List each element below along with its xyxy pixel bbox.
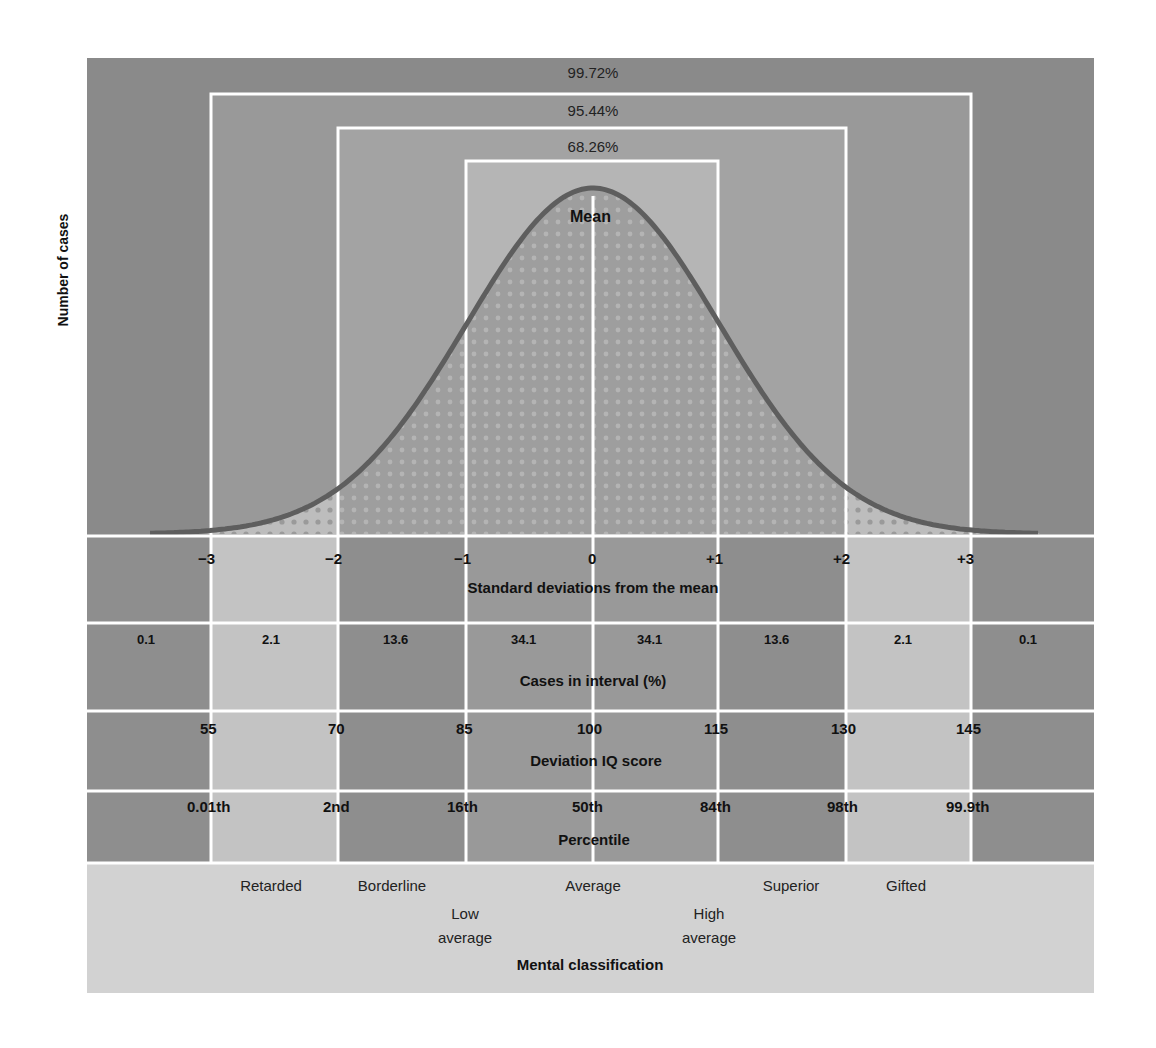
class-superior: Superior (763, 874, 820, 898)
sd-tick-0: 0 (588, 550, 596, 567)
class-low-average-line2: average (438, 926, 492, 950)
iq-value: 145 (956, 720, 981, 737)
cases-value: 0.1 (137, 632, 155, 647)
cases-value: 34.1 (637, 632, 662, 647)
sd-row-title: Standard deviations from the mean (468, 579, 719, 596)
class-high-average-line1: High (694, 902, 725, 926)
percentile-value: 99.9th (946, 798, 989, 815)
sd-tick-plus3: +3 (957, 550, 974, 567)
percentile-value: 84th (700, 798, 731, 815)
percentile-value: 2nd (323, 798, 350, 815)
bracket-95-label: 95.44% (568, 102, 619, 119)
bracket-68-label: 68.26% (568, 138, 619, 155)
iq-value: 100 (577, 720, 602, 737)
cases-value: 13.6 (383, 632, 408, 647)
sd-tick-plus2: +2 (833, 550, 850, 567)
cases-value: 2.1 (894, 632, 912, 647)
percentile-value: 16th (447, 798, 478, 815)
cases-value: 0.1 (1019, 632, 1037, 647)
mean-label: Mean (570, 208, 611, 226)
iq-value: 70 (328, 720, 345, 737)
iq-value: 115 (704, 720, 728, 737)
iq-value: 130 (831, 720, 856, 737)
iq-value: 85 (456, 720, 473, 737)
sd-tick-minus3: −3 (198, 550, 215, 567)
class-average: Average (565, 874, 621, 898)
sd-tick-minus2: −2 (325, 550, 342, 567)
class-retarded: Retarded (240, 874, 302, 898)
percentile-value: 0.01th (187, 798, 230, 815)
iq-normal-distribution-figure: Number of cases 99.72% 95.44% 68.26% Mea… (0, 0, 1156, 1048)
iq-row-title: Deviation IQ score (530, 752, 662, 769)
cases-row-title: Cases in interval (%) (520, 672, 667, 689)
percentile-value: 98th (827, 798, 858, 815)
percentile-row-title: Percentile (558, 831, 630, 848)
class-borderline: Borderline (358, 874, 426, 898)
percentile-value: 50th (572, 798, 603, 815)
sd-tick-plus1: +1 (706, 550, 723, 567)
bracket-99-label: 99.72% (568, 64, 619, 81)
cases-value: 13.6 (764, 632, 789, 647)
class-high-average-line2: average (682, 926, 736, 950)
y-axis-label: Number of cases (48, 190, 78, 350)
iq-value: 55 (200, 720, 217, 737)
classification-row-title: Mental classification (517, 956, 664, 973)
y-axis-label-text: Number of cases (55, 214, 71, 327)
class-low-average-line1: Low (451, 902, 479, 926)
cases-value: 2.1 (262, 632, 280, 647)
cases-value: 34.1 (511, 632, 536, 647)
sd-tick-minus1: −1 (454, 550, 471, 567)
class-gifted: Gifted (886, 874, 926, 898)
